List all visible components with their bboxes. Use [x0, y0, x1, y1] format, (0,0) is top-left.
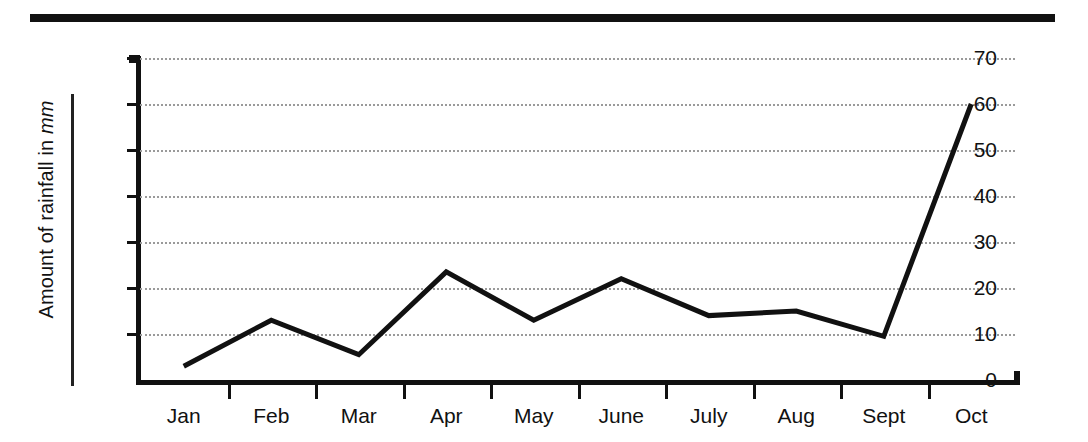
x-tick-label: July — [665, 404, 753, 428]
y-tick-mark — [127, 287, 138, 290]
rainfall-polyline — [184, 104, 972, 366]
y-tick-mark — [127, 57, 138, 60]
y-axis-title-group: Amount of rainfall in mm — [14, 46, 76, 382]
x-tick-label: Mar — [315, 404, 403, 428]
x-tick-label: Feb — [228, 404, 316, 428]
chart-page: Amount of rainfall in mm 010203040506070… — [0, 0, 1088, 442]
x-tick-label: Oct — [928, 404, 1016, 428]
x-tick-mark — [490, 385, 493, 399]
x-tick-mark — [228, 385, 231, 399]
x-tick-mark — [928, 385, 931, 399]
x-tick-label: Jan — [140, 404, 228, 428]
y-axis-title-unit: mm — [35, 100, 57, 134]
top-rule-divider — [30, 14, 1055, 22]
x-tick-mark — [578, 385, 581, 399]
y-tick-mark — [127, 149, 138, 152]
x-tick-label: Apr — [403, 404, 491, 428]
x-tick-mark — [403, 385, 406, 399]
x-tick-mark — [665, 385, 668, 399]
y-axis-title-rule — [71, 94, 74, 386]
y-tick-mark — [127, 103, 138, 106]
y-tick-mark — [127, 241, 138, 244]
x-tick-label: Sept — [840, 404, 928, 428]
x-tick-label: June — [578, 404, 666, 428]
x-tick-label: Aug — [753, 404, 841, 428]
x-tick-mark — [753, 385, 756, 399]
plot-area: 010203040506070 JanFebMarAprMayJuneJulyA… — [140, 58, 1015, 380]
y-axis-title-text: Amount of rainfall in — [35, 134, 57, 319]
x-tick-mark — [315, 385, 318, 399]
x-tick-label: May — [490, 404, 578, 428]
x-tick-mark — [840, 385, 843, 399]
rainfall-line-series — [140, 58, 1015, 380]
y-tick-mark — [127, 195, 138, 198]
y-axis-title: Amount of rainfall in mm — [35, 60, 58, 360]
y-tick-mark — [127, 333, 138, 336]
